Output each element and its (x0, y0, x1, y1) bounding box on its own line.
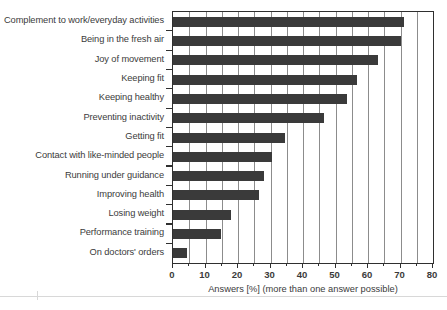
footer-divider-mark (37, 291, 38, 300)
x-axis-tick-minor (286, 263, 287, 266)
bar (173, 229, 221, 239)
x-axis-tick-major (205, 263, 206, 268)
bar (173, 75, 357, 85)
category-label-column: Complement to work/everyday activitiesBe… (0, 11, 168, 262)
bar (173, 171, 264, 181)
x-axis-tick-minor (416, 263, 417, 266)
x-axis-tick-minor (318, 263, 319, 266)
bar-row (173, 205, 433, 224)
x-axis-tick-minor (188, 263, 189, 266)
bar (173, 210, 231, 220)
category-label: Joy of movement (0, 50, 168, 69)
bar (173, 248, 187, 258)
bar (173, 36, 401, 46)
bar-row (173, 186, 433, 205)
bar (173, 17, 404, 27)
bar-row (173, 51, 433, 70)
category-label: Contact with like-minded people (0, 146, 168, 165)
x-axis-tick-major (270, 263, 271, 268)
category-label: Getting fit (0, 127, 168, 146)
category-label: Preventing inactivity (0, 108, 168, 127)
category-label: Improving health (0, 185, 168, 204)
category-label: On doctors' orders (0, 243, 168, 262)
bar-row (173, 31, 433, 50)
x-axis-tick-major (302, 263, 303, 268)
x-axis-tick-label: 80 (427, 269, 438, 280)
x-axis-tick-label: 20 (232, 269, 243, 280)
bar-row (173, 147, 433, 166)
x-axis-tick-major (335, 263, 336, 268)
bar-chart: Complement to work/everyday activitiesBe… (0, 0, 447, 310)
bar-row (173, 109, 433, 128)
bar-row (173, 70, 433, 89)
plot-area (172, 11, 434, 264)
x-axis-tick-major (172, 263, 173, 268)
x-axis-tick-major (237, 263, 238, 268)
category-label: Being in the fresh air (0, 30, 168, 49)
x-axis-tick-label: 0 (169, 269, 174, 280)
x-axis-tick-label: 40 (297, 269, 308, 280)
bar-row (173, 128, 433, 147)
bar-row (173, 224, 433, 243)
x-axis-tick-label: 10 (199, 269, 210, 280)
bars-layer (173, 12, 433, 263)
bar-row (173, 244, 433, 263)
category-label: Running under guidance (0, 166, 168, 185)
x-axis-tick-major (367, 263, 368, 268)
footer-divider (0, 296, 447, 297)
bar-row (173, 89, 433, 108)
category-label: Complement to work/everyday activities (0, 11, 168, 30)
bar (173, 133, 285, 143)
bar-row (173, 12, 433, 31)
category-label: Performance training (0, 223, 168, 242)
x-axis-tick-major (432, 263, 433, 268)
x-axis: Answers [%] (more than one answer possib… (172, 263, 434, 303)
category-label: Keeping fit (0, 69, 168, 88)
category-label: Losing weight (0, 204, 168, 223)
bar (173, 94, 347, 104)
x-axis-tick-label: 60 (362, 269, 373, 280)
x-axis-tick-minor (253, 263, 254, 266)
x-axis-tick-label: 50 (329, 269, 340, 280)
x-axis-tick-minor (351, 263, 352, 266)
x-axis-tick-minor (221, 263, 222, 266)
x-axis-tick-minor (383, 263, 384, 266)
category-label: Keeping healthy (0, 88, 168, 107)
bar (173, 55, 378, 65)
bar (173, 190, 259, 200)
x-axis-tick-label: 70 (394, 269, 405, 280)
bar (173, 113, 324, 123)
bar-row (173, 167, 433, 186)
x-axis-title: Answers [%] (more than one answer possib… (172, 284, 434, 294)
bar (173, 152, 272, 162)
x-axis-tick-label: 30 (264, 269, 275, 280)
x-axis-tick-major (400, 263, 401, 268)
